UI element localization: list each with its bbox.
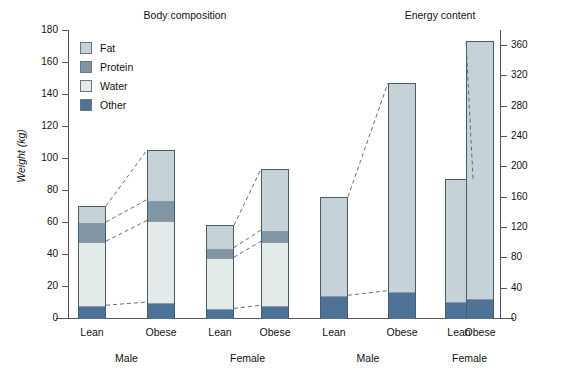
bar-segment-fat xyxy=(79,207,105,223)
connector-line xyxy=(106,302,147,305)
bar-segment-divider xyxy=(79,242,105,243)
y-tick-label-right-80: 80 xyxy=(511,252,553,262)
y-tick-left-0 xyxy=(62,318,68,319)
bar-segment-fat xyxy=(148,151,174,201)
connector-line xyxy=(106,200,147,222)
bar-segment-other xyxy=(207,309,233,319)
bar-segment-divider xyxy=(148,201,174,202)
y-tick-right-240 xyxy=(501,136,507,137)
connector-line xyxy=(348,291,388,296)
bar-segment-protein xyxy=(207,249,233,259)
y-tick-label-right-200: 200 xyxy=(511,161,553,171)
y-tick-label-left-120: 120 xyxy=(16,121,58,131)
bar-body-composition-male-lean xyxy=(78,206,106,318)
bar-segment-fat xyxy=(321,198,347,297)
panel-title-body-composition: Body composition xyxy=(95,9,275,21)
bar-segment-water xyxy=(79,242,105,306)
bar-segment-divider xyxy=(262,242,288,243)
x-axis-group-label-female-1: Female xyxy=(203,352,293,364)
bar-segment-fat xyxy=(389,84,415,292)
y-tick-right-120 xyxy=(501,227,507,228)
bar-energy-content-male-obese xyxy=(388,83,416,318)
bar-segment-divider xyxy=(148,221,174,222)
y-tick-label-right-360: 360 xyxy=(511,40,553,50)
bar-body-composition-female-lean xyxy=(206,225,234,318)
y-tick-label-left-60: 60 xyxy=(16,217,58,227)
chart-figure: Body composition Energy content Weight (… xyxy=(0,0,566,375)
x-axis-group-label-male-0: Male xyxy=(82,352,172,364)
legend-label-protein: Protein xyxy=(100,61,133,73)
bar-segment-water xyxy=(262,242,288,306)
y-tick-right-360 xyxy=(501,45,507,46)
legend-item-other: Other xyxy=(80,95,133,114)
bar-segment-other xyxy=(262,306,288,319)
y-tick-label-left-180: 180 xyxy=(16,25,58,35)
y-tick-label-left-40: 40 xyxy=(16,249,58,259)
y-tick-label-left-160: 160 xyxy=(16,57,58,67)
panel-title-energy-content: Energy content xyxy=(350,9,530,21)
x-axis-label-obese-7: Obese xyxy=(445,326,515,338)
connector-line xyxy=(106,150,147,206)
bar-body-composition-male-obese xyxy=(147,150,175,318)
y-tick-label-left-20: 20 xyxy=(16,281,58,291)
bar-body-composition-female-obese xyxy=(261,169,289,318)
y-tick-right-160 xyxy=(501,197,507,198)
bar-segment-other xyxy=(467,299,493,319)
legend-label-water: Water xyxy=(100,80,128,92)
y-tick-label-left-0: 0 xyxy=(16,313,58,323)
bar-segment-divider xyxy=(148,303,174,304)
y-tick-label-right-0: 0 xyxy=(511,313,553,323)
legend-label-other: Other xyxy=(100,99,126,111)
y-axis-right xyxy=(500,30,501,318)
y-tick-left-160 xyxy=(62,62,68,63)
bar-segment-divider xyxy=(79,306,105,307)
y-tick-label-left-100: 100 xyxy=(16,153,58,163)
legend-item-protein: Protein xyxy=(80,57,133,76)
bar-segment-divider xyxy=(321,296,347,297)
bar-segment-other xyxy=(148,303,174,319)
legend-label-fat: Fat xyxy=(100,42,115,54)
x-axis-group-label-male-2: Male xyxy=(323,352,413,364)
connector-line xyxy=(234,169,261,225)
bar-segment-fat xyxy=(207,226,233,248)
connector-line xyxy=(106,220,147,241)
y-tick-right-200 xyxy=(501,166,507,167)
bar-segment-divider xyxy=(79,223,105,224)
legend-swatch-protein xyxy=(80,61,92,73)
bar-segment-other xyxy=(389,292,415,319)
bar-segment-water xyxy=(148,221,174,303)
y-tick-left-80 xyxy=(62,190,68,191)
connector-line xyxy=(234,241,261,257)
y-tick-label-left-80: 80 xyxy=(16,185,58,195)
y-tick-left-40 xyxy=(62,254,68,255)
connector-line xyxy=(348,83,388,197)
bar-segment-fat xyxy=(262,170,288,231)
y-tick-left-180 xyxy=(62,30,68,31)
y-tick-left-20 xyxy=(62,286,68,287)
bar-energy-content-male-lean xyxy=(320,197,348,318)
y-tick-right-80 xyxy=(501,257,507,258)
y-tick-label-right-120: 120 xyxy=(511,222,553,232)
y-axis-left xyxy=(68,30,69,318)
y-tick-label-left-140: 140 xyxy=(16,89,58,99)
y-tick-label-right-160: 160 xyxy=(511,192,553,202)
y-tick-left-120 xyxy=(62,126,68,127)
bar-segment-divider xyxy=(262,231,288,232)
y-tick-left-60 xyxy=(62,222,68,223)
bar-segment-other xyxy=(79,306,105,319)
connector-line xyxy=(234,305,261,308)
bar-segment-protein xyxy=(262,231,288,242)
bar-segment-divider xyxy=(207,249,233,250)
bar-segment-protein xyxy=(79,223,105,242)
y-tick-right-280 xyxy=(501,106,507,107)
connector-line xyxy=(234,230,261,248)
bar-energy-content-female-obese xyxy=(466,41,494,318)
bar-segment-protein xyxy=(148,201,174,222)
y-tick-left-100 xyxy=(62,158,68,159)
bar-segment-divider xyxy=(467,299,493,300)
y-tick-right-40 xyxy=(501,288,507,289)
chart-legend: Fat Protein Water Other xyxy=(80,38,133,114)
x-axis-label-lean-0: Lean xyxy=(57,326,127,338)
bar-segment-fat xyxy=(467,42,493,300)
bar-segment-divider xyxy=(207,258,233,259)
